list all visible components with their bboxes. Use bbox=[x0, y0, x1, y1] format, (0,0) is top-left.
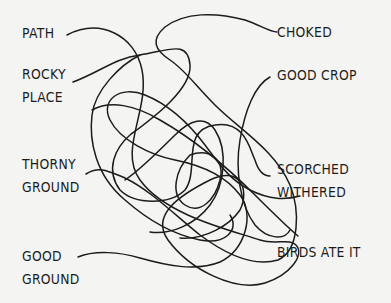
label-path-line: PATH bbox=[22, 22, 54, 45]
label-thorny-ground: THORNY GROUND bbox=[22, 153, 80, 199]
label-goodground-line-2: GROUND bbox=[22, 268, 80, 291]
label-goodground-line-1: GOOD bbox=[22, 245, 80, 268]
label-goodcrop-line: GOOD CROP bbox=[277, 64, 357, 87]
label-birds-line: BIRDS ATE IT bbox=[277, 241, 361, 264]
label-thorny-line-1: THORNY bbox=[22, 153, 80, 176]
line-sweep bbox=[125, 121, 223, 233]
label-scorched-line-1: SCORCHED bbox=[277, 158, 349, 181]
line-thorny-to-choked bbox=[86, 15, 296, 262]
line-goodcrop bbox=[238, 77, 290, 237]
label-rocky-line-1: ROCKY bbox=[22, 63, 66, 86]
label-choked-line: CHOKED bbox=[277, 21, 332, 44]
label-rocky-place: ROCKY PLACE bbox=[22, 63, 66, 109]
label-thorny-line-2: GROUND bbox=[22, 176, 80, 199]
label-scorched-line-2: WITHERED bbox=[277, 181, 349, 204]
label-good-crop: GOOD CROP bbox=[277, 64, 357, 87]
line-diagonal bbox=[92, 105, 298, 236]
label-path: PATH bbox=[22, 22, 54, 45]
label-rocky-line-2: PLACE bbox=[22, 86, 66, 109]
tangle-diagram: PATH ROCKY PLACE THORNY GROUND GOOD GROU… bbox=[0, 0, 391, 303]
line-path-to-birds bbox=[67, 28, 299, 285]
label-choked: CHOKED bbox=[277, 21, 332, 44]
label-birds-ate-it: BIRDS ATE IT bbox=[277, 241, 361, 264]
line-rocky-to-scorched bbox=[73, 49, 270, 202]
label-good-ground: GOOD GROUND bbox=[22, 245, 80, 291]
label-scorched-withered: SCORCHED WITHERED bbox=[277, 158, 349, 204]
